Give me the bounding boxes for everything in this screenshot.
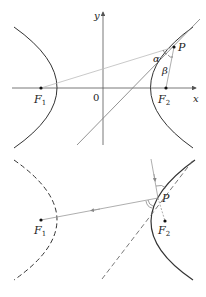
hyperbola-right-branch: [151, 27, 194, 148]
focus-F2-label: F2: [157, 93, 170, 107]
y-axis-label: y: [93, 10, 100, 21]
angle-alpha-label: α: [153, 53, 160, 64]
angle-beta-label: β: [161, 65, 168, 76]
focus-F2-point: [163, 219, 166, 222]
focus-F2-label: F2: [157, 224, 170, 238]
focus-F1-label: F1: [33, 224, 46, 238]
hyperbola-left-branch: [14, 27, 57, 148]
point-P-label: P: [161, 192, 170, 205]
bottom-figure: F1 F2 P: [14, 159, 195, 280]
hyperbola-reflection-diagram: x y 0 F1 F2 P α β F1 F2 P: [0, 0, 206, 297]
point-P-label: P: [177, 41, 186, 54]
tangent-line: [77, 19, 200, 145]
focus-F1-point: [39, 218, 42, 221]
focus-F1-point: [39, 86, 42, 89]
hyperbola-right-branch: [151, 160, 195, 280]
angle-arc-lower-1: [146, 201, 152, 208]
focus-F1-label: F1: [33, 93, 46, 107]
top-figure: x y 0 F1 F2 P α β: [12, 10, 200, 148]
focus-F2-point: [164, 86, 167, 89]
point-P: [172, 45, 175, 48]
tangent-line-dashed: [102, 159, 194, 279]
incoming-ray-arrow: [154, 174, 155, 180]
origin-label: 0: [93, 92, 99, 103]
hyperbola-left-branch-dashed: [14, 160, 57, 280]
x-axis-label: x: [193, 93, 199, 104]
reflected-ray-arrow: [92, 209, 100, 211]
angle-arc-lower-2: [148, 200, 153, 206]
